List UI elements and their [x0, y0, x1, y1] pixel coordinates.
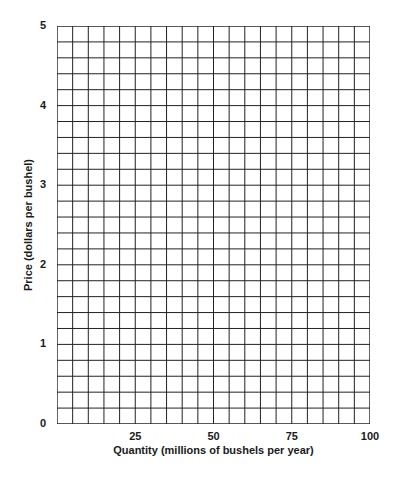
y-tick-label: 1 — [26, 337, 46, 349]
y-tick-label: 4 — [26, 99, 46, 111]
y-axis-label: Price (dollars per bushel) — [22, 159, 34, 291]
x-tick-label: 50 — [194, 430, 234, 442]
x-tick-label: 100 — [350, 430, 390, 442]
y-tick-label: 5 — [26, 19, 46, 31]
x-tick-label: 25 — [115, 430, 155, 442]
x-axis-label: Quantity (millions of bushels per year) — [57, 444, 370, 456]
y-tick-label: 0 — [26, 417, 46, 429]
graph-grid — [57, 26, 370, 424]
x-tick-label: 75 — [272, 430, 312, 442]
